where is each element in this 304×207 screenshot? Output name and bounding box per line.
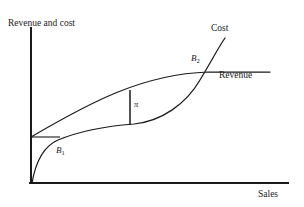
cost-curve-label: Cost	[211, 24, 228, 34]
y-axis-label: Revenue and cost	[8, 19, 75, 29]
x-axis-label: Sales	[258, 190, 278, 200]
breakeven-low-letter: B	[56, 145, 62, 155]
profit-symbol-label: π	[134, 100, 138, 109]
revenue-curve-label: Revenue	[219, 71, 252, 81]
breakeven-low-subscript: 1	[62, 149, 65, 156]
breakeven-low-label: B1	[56, 146, 65, 155]
revenue-cost-breakeven-chart: Revenue and cost Sales Cost Revenue B1 B…	[0, 0, 304, 207]
chart-canvas	[0, 0, 304, 207]
revenue-curve	[31, 72, 270, 137]
breakeven-high-label: B2	[191, 54, 200, 63]
breakeven-high-letter: B	[191, 53, 197, 63]
breakeven-high-subscript: 2	[197, 57, 200, 64]
